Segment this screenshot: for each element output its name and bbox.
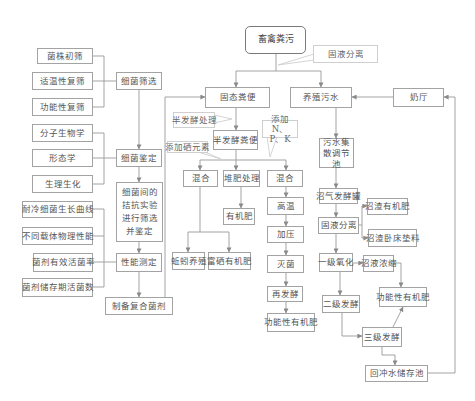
node-mix-right: 混合 <box>267 170 303 187</box>
node-semi-fermented-manure: 半发酵粪便 <box>213 130 258 150</box>
arrow-tertiary-backflush <box>382 347 395 365</box>
node-refermentation: 再发酵 <box>267 286 303 302</box>
node-cold-growth-curve: 耐冷细菌生长曲线 <box>22 201 93 218</box>
arrow-backflush-dairy <box>428 97 455 373</box>
node-regulating-pool: 污水集散调节池 <box>319 138 354 168</box>
node-morphology: 形态学 <box>32 149 93 167</box>
node-functional-rescreening: 功能性复筛 <box>32 98 93 116</box>
node-antagonism-test: 细菌间的拮抗实验进行筛选并鉴定 <box>116 182 163 242</box>
node-bacteria-identification: 细菌鉴定 <box>116 149 162 167</box>
node-temperature-rescreening: 适温性复筛 <box>32 72 93 90</box>
node-wastewater: 养殖污水 <box>290 87 352 108</box>
separation-split <box>359 206 362 238</box>
node-tertiary-fermentation: 三级发酵 <box>362 327 402 347</box>
node-molecular-biology: 分子生物学 <box>32 124 93 142</box>
node-strain-primary-screening: 菌株初筛 <box>37 48 93 64</box>
node-biogas-tank: 沼气发酵罐 <box>319 188 358 204</box>
arrow-tertiary-functional <box>393 307 403 327</box>
root-node-livestock-manure: 畜禽粪污 <box>245 26 306 54</box>
node-biogas-residue-fertilizer: 沼渣有机肥 <box>367 198 408 215</box>
callout-tail-separation <box>278 54 314 65</box>
node-carrier-physical-properties: 不同载体物理性能 <box>22 227 93 245</box>
node-compound-agent: 制备复合菌剂 <box>105 297 173 315</box>
bracket-performance <box>93 209 116 287</box>
node-dairy-hall: 奶厅 <box>393 88 444 107</box>
node-storage-viable-count: 菌剂储存期活菌数 <box>22 278 93 297</box>
node-performance-test: 性能测定 <box>116 253 162 272</box>
node-composting: 堆肥处理 <box>223 170 260 187</box>
arrow-secondary-tertiary <box>342 313 362 336</box>
node-functional-organic-fertilizer-solid: 功能性有机肥 <box>267 313 315 332</box>
bracket-screening <box>93 56 116 107</box>
node-high-temperature: 高温 <box>267 197 304 215</box>
bracket-identification <box>93 133 116 184</box>
node-earthworm-breeding: 蚯蚓养殖 <box>172 252 205 270</box>
node-selenium-organic-fertilizer: 富硒有机肥 <box>208 252 251 270</box>
node-pressurize: 加压 <box>267 226 304 243</box>
node-mix-left: 混合 <box>183 170 218 187</box>
node-biogas-residue-bedding: 沼渣卧床垫料 <box>368 229 417 247</box>
node-effective-viable-rate: 菌剂有效活菌率 <box>33 253 93 272</box>
node-primary-oxidation: 一级氧化 <box>319 253 353 272</box>
callout-tail-semi <box>214 115 232 123</box>
process-flow-diagram: 畜禽粪污 固液分离 半发酵处理 添加N、P、K 添加硒元素 菌株初筛 适温性复筛… <box>0 0 475 401</box>
node-physiology-biochemistry: 生理生化 <box>32 175 93 193</box>
node-organic-fertilizer: 有机肥 <box>223 208 255 225</box>
node-bacteria-screening: 细菌筛选 <box>116 72 162 90</box>
node-solid-manure: 固态粪便 <box>205 87 270 108</box>
callout-semi-fermentation-treatment: 半发酵处理 <box>173 112 215 128</box>
node-functional-organic-fertilizer-liquid: 功能性有机肥 <box>379 287 427 307</box>
callout-solid-liquid-separation: 固液分离 <box>313 45 378 63</box>
node-sterilize: 灭菌 <box>267 255 304 273</box>
node-slurry-concentration: 沼液浓缩 <box>363 255 394 272</box>
callout-add-npk: 添加N、P、K <box>262 120 298 138</box>
node-secondary-fermentation: 二级发酵 <box>322 295 360 313</box>
callout-tail-selenium <box>198 152 221 159</box>
callout-add-selenium: 添加硒元素 <box>167 141 208 153</box>
node-solid-liquid-separation: 固液分离 <box>318 217 359 234</box>
node-backflush-water-pool: 回冲水储存池 <box>365 365 428 382</box>
